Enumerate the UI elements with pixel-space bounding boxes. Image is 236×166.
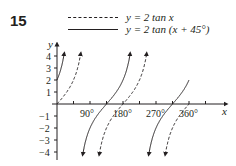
y-tick-label: −2 xyxy=(39,123,50,134)
solid-curve xyxy=(57,54,64,80)
x-tick-label: 90° xyxy=(80,108,94,119)
x-tick-label: 180° xyxy=(113,108,132,119)
y-tick-label: −3 xyxy=(39,135,50,146)
x-tick-label: 360° xyxy=(179,108,198,119)
chart-plot: 90°180°270°360° −4−3−2−11234 x y xyxy=(0,0,236,166)
y-tick-label: 1 xyxy=(46,87,51,98)
dashed-curve xyxy=(57,54,81,104)
y-tick-label: 3 xyxy=(46,63,51,74)
y-tick-label: 4 xyxy=(46,51,51,62)
y-tick-label: 2 xyxy=(46,75,51,86)
x-axis-label: x xyxy=(221,105,227,117)
y-axis-label: y xyxy=(47,38,53,50)
y-tick-label: −4 xyxy=(39,147,50,158)
y-tick-label: −1 xyxy=(39,111,50,122)
